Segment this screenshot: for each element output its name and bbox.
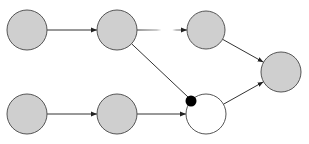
node-n2 <box>97 10 137 50</box>
node-n1 <box>7 10 47 50</box>
node-n5 <box>7 94 47 134</box>
diagram-canvas <box>0 0 309 144</box>
markers-layer <box>186 96 197 107</box>
node-n6 <box>97 94 137 134</box>
edge-n7-n4 <box>224 82 264 104</box>
node-n3 <box>187 11 225 49</box>
node-n4 <box>261 52 301 92</box>
dot-marker-icon <box>186 96 197 107</box>
edges-layer <box>47 30 264 114</box>
edge-n3-n4 <box>223 39 264 62</box>
nodes-layer <box>7 10 301 134</box>
edge-n2-n7 <box>132 44 192 101</box>
